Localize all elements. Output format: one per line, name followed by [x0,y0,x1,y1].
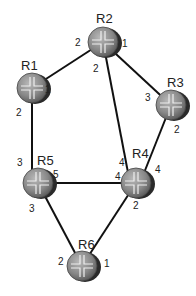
port-r3-2: 2 [174,124,180,135]
port-r2-2-bottom: 2 [93,63,99,74]
port-r1-2: 2 [16,107,22,118]
router-label-r3: R3 [167,75,184,90]
port-r4-2: 2 [133,200,139,211]
port-r6-1: 1 [104,258,110,269]
router-label-r4: R4 [132,146,149,161]
router-r3-icon[interactable] [156,90,190,121]
port-r6-2: 2 [58,256,64,267]
router-label-r5: R5 [37,153,54,168]
port-r3-3: 3 [145,92,151,103]
port-r5-3-top: 3 [17,157,23,168]
router-r4-icon[interactable] [121,168,155,199]
port-r4-4-left: 4 [115,171,121,182]
router-r2-icon[interactable] [88,27,122,58]
router-label-r6: R6 [78,237,95,252]
port-r4-4-top: 4 [119,157,125,168]
port-r2-2-left: 2 [75,37,81,48]
router-r6-icon[interactable] [67,251,101,282]
network-diagram: R1 R2 R3 R4 R5 R6 1 2 2 1 2 3 2 4 4 4 2 … [0,0,196,296]
port-r5-3-bottom: 3 [29,203,35,214]
port-r4-4-right: 4 [155,164,161,175]
port-r5-5: 5 [53,169,59,180]
port-r1-1: 1 [45,84,51,95]
router-label-r1: R1 [21,58,38,73]
router-label-r2: R2 [96,11,113,26]
port-r2-1: 1 [122,38,128,49]
router-r5-icon[interactable] [23,168,57,199]
